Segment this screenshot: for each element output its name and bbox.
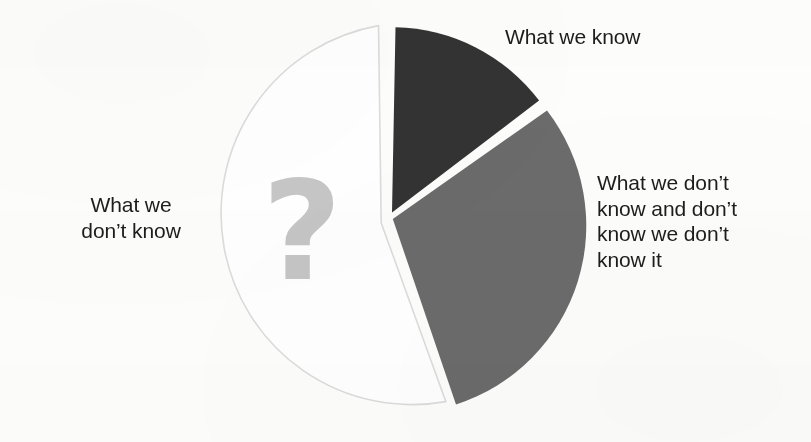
pie-label-unknown-unknowns: What we don’t know and don’t know we don… bbox=[597, 170, 737, 272]
pie-chart-figure: ? What we know What we don’t know and do… bbox=[0, 0, 811, 442]
pie-label-what-we-dont-know: What we don’t know bbox=[56, 192, 206, 243]
pie-label-what-we-know: What we know bbox=[505, 24, 640, 50]
question-mark-icon: ? bbox=[262, 162, 334, 302]
